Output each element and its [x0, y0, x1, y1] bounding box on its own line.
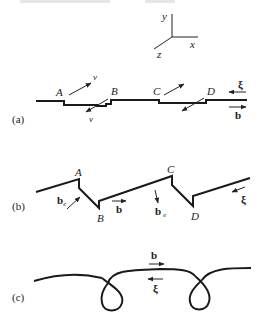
velocity-arrow-c-up: [164, 84, 184, 95]
xi-label-a: ξ: [238, 78, 243, 91]
point-label-a: A: [74, 166, 82, 178]
point-label-d: D: [190, 210, 199, 222]
point-label-b: B: [97, 212, 104, 224]
panel-tag-c: (c): [12, 291, 25, 304]
b-label-a: b: [235, 109, 241, 121]
coordinate-axes: y x z: [154, 10, 198, 60]
panel-c: b ξ (c): [12, 249, 251, 311]
xi-label-b: ξ: [241, 193, 246, 206]
panel-b: A B C D be b be ξ (b): [12, 163, 250, 224]
bs-arrow-c: [155, 190, 158, 203]
velocity-arrow-a-up: [69, 83, 91, 95]
point-label-a: A: [55, 86, 63, 98]
dislocation-line-a: [36, 100, 247, 106]
panel-a: A B C D v v ξ b (a): [12, 72, 247, 126]
loop-left: [101, 278, 122, 311]
bs-label-c: be: [155, 205, 166, 219]
b-label-c: b: [151, 249, 157, 261]
be-label-a: be: [57, 194, 66, 208]
velocity-label-bottom: v: [89, 114, 93, 124]
b-label-b: b: [116, 203, 122, 215]
cropped-text-remnant: [20, 0, 110, 3]
loop-right: [190, 276, 210, 310]
dislocation-kinks-jogs-diagram: y x z A B C D v v ξ b (a) A B C D be: [0, 0, 266, 320]
velocity-arrow-d-down: [182, 98, 204, 111]
xi-arrow-b: [232, 187, 245, 192]
axis-label-x: x: [189, 38, 195, 50]
point-label-b: B: [111, 85, 118, 97]
point-label-c: C: [167, 163, 175, 175]
dislocation-line-b: [36, 176, 250, 208]
velocity-label-top: v: [93, 72, 97, 82]
dislocation-line-c: [34, 268, 251, 283]
panel-tag-a: (a): [12, 113, 25, 126]
point-label-c: C: [153, 85, 161, 97]
xi-label-c: ξ: [153, 282, 158, 295]
axis-label-z: z: [156, 48, 162, 60]
be-arrow-a: [67, 197, 80, 209]
panel-tag-b: (b): [12, 200, 25, 213]
cropped-text-remnant: [145, 0, 175, 3]
point-label-d: D: [206, 85, 215, 97]
axis-label-y: y: [161, 10, 167, 22]
